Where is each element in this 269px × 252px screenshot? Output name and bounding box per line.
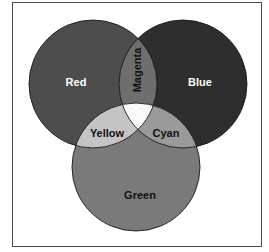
label-yellow: Yellow bbox=[90, 127, 125, 139]
label-magenta: Magenta bbox=[131, 47, 143, 93]
label-green: Green bbox=[124, 189, 156, 201]
label-cyan: Cyan bbox=[153, 127, 180, 139]
label-blue: Blue bbox=[188, 76, 212, 88]
label-red: Red bbox=[66, 76, 87, 88]
venn-diagram: Red Blue Green Magenta Yellow Cyan bbox=[0, 0, 269, 252]
